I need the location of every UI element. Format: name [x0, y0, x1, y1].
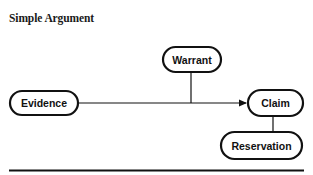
- node-reservation-label: Reservation: [231, 140, 291, 152]
- node-claim: Claim: [248, 90, 303, 116]
- node-evidence-label: Evidence: [21, 97, 67, 109]
- node-warrant-label: Warrant: [172, 54, 212, 66]
- node-warrant: Warrant: [163, 47, 221, 72]
- node-reservation: Reservation: [221, 132, 302, 159]
- argument-diagram: Warrant Evidence Claim Reservation: [0, 0, 313, 175]
- node-claim-label: Claim: [261, 97, 290, 109]
- node-evidence: Evidence: [10, 91, 78, 115]
